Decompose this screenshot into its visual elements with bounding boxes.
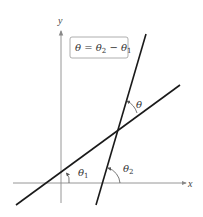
angle-between-lines-diagram: x y θ = θ2 − θ1 θ θ1 θ2 bbox=[0, 0, 203, 217]
line-2 bbox=[96, 34, 146, 205]
x-axis-label: x bbox=[187, 178, 193, 189]
line-1 bbox=[16, 85, 180, 205]
y-axis-label: y bbox=[57, 15, 63, 26]
theta2-arc-icon bbox=[108, 168, 120, 183]
theta1-label: θ1 bbox=[78, 167, 89, 180]
theta2-label: θ2 bbox=[123, 163, 134, 176]
theta1-arc-icon bbox=[67, 173, 70, 183]
theta-label: θ bbox=[136, 99, 142, 110]
